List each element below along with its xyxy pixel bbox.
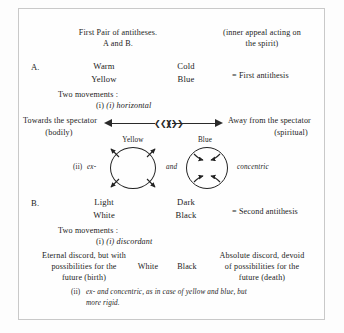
section-a-result: = First antithesis [232,71,289,80]
section-a-movement-ii-num: (ii) [73,163,82,171]
section-a-movement-i: (i) (i) horizontal [96,101,151,110]
section-b-dark: Dark [177,198,195,208]
heading-line-1: First Pair of antitheses. [79,28,157,37]
excentric-circle-diagram [107,146,159,190]
towards-spectator-line-1: Towards the spectator [23,116,97,125]
section-b-right-line-3: future (death) [239,273,285,282]
section-b-movement-ii-line-2: more rigid. [86,299,120,307]
heading-line-2: A and B. [103,39,133,48]
section-b-white: White [93,211,115,221]
section-b-right-line-2: of possibilities for the [225,262,299,271]
horizontal-double-arrow-icon: ❮❮❮ ❯❯❯ [104,119,223,128]
section-b-left-line-2: possibilities for the [51,262,116,271]
section-b-light: Light [94,198,113,208]
section-a-movement-ii-and: and [166,163,177,171]
excentric-arrows-icon [107,146,159,190]
inner-appeal-note-line-1: (inner appeal acting on [223,28,301,37]
section-b-result: = Second antithesis [232,207,298,216]
section-a-movement-ii-concentric: concentric [237,163,269,171]
section-a-blue: Blue [178,75,195,85]
section-a-label: A. [31,63,40,73]
section-b-movement-i-text: (i) discordant [106,237,152,246]
towards-spectator-line-2: (bodily) [45,128,72,137]
section-b-mid-white: White [138,262,159,271]
section-b-mid-black: Black [177,262,197,271]
circle-right-label-blue: Blue [198,136,212,144]
section-b-two-movements: Two movements : [58,226,118,235]
away-spectator-line-2: (spiritual) [274,128,308,137]
section-a-movement-ii-ex: ex- [87,163,96,171]
section-a-movement-i-text: (i) horizontal [106,101,151,110]
section-a-yellow: Yellow [91,75,116,85]
section-b-movement-i: (i) (i) discordant [96,237,152,246]
section-b-left-line-3: future (birth) [62,273,106,282]
inner-appeal-note-line-2: the spirit) [246,39,279,48]
section-a-two-movements: Two movements : [58,90,118,99]
section-b-black: Black [176,211,197,221]
section-a-cold: Cold [177,62,194,72]
section-b-right-line-1: Absolute discord, devoid [220,251,305,260]
away-spectator-line-1: Away from the spectator [228,116,311,125]
scanned-diagram-page: First Pair of antitheses. A and B. (inne… [0,0,344,333]
section-b-label: B. [31,199,39,209]
section-b-left-line-1: Eternal discord, but with [42,251,126,260]
section-b-movement-ii-num: (ii) [71,288,80,296]
section-a-warm: Warm [93,62,114,72]
concentric-arrows-icon [185,146,229,190]
circle-left-label-yellow: Yellow [122,136,143,144]
section-b-movement-ii-line-1: ex- and concentric, as in case of yellow… [86,288,247,296]
concentric-circle-diagram [185,146,229,190]
